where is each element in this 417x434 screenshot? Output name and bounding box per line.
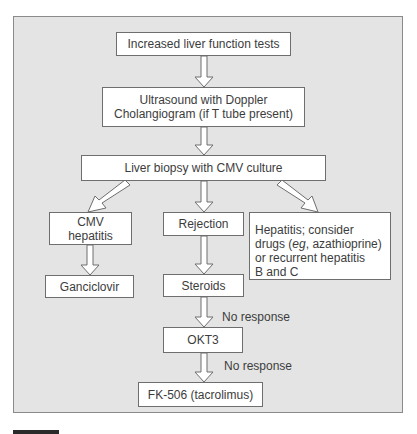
arrow-down-icon bbox=[195, 353, 213, 382]
node-liver-biopsy: Liver biopsy with CMV culture bbox=[81, 155, 326, 181]
arrow-down-icon bbox=[195, 181, 213, 212]
arrow-down-icon bbox=[195, 297, 213, 327]
hepatitis-text: Hepatitis; consider drugs (eg, azathiopr… bbox=[255, 223, 382, 279]
node-ganciclovir: Ganciclovir bbox=[45, 275, 134, 298]
arrow-diagonal-left-icon bbox=[88, 180, 130, 212]
edge-label-no-response-2: No response bbox=[224, 359, 292, 373]
node-cmv-hepatitis: CMV hepatitis bbox=[49, 212, 132, 245]
figure-label-bar bbox=[13, 430, 59, 434]
node-hepatitis-drugs: Hepatitis; consider drugs (eg, azathiopr… bbox=[249, 212, 391, 280]
node-ultrasound: Ultrasound with Doppler Cholangiogram (i… bbox=[102, 87, 305, 127]
node-increased-lft: Increased liver function tests bbox=[116, 32, 291, 56]
arrow-diagonal-right-icon bbox=[277, 180, 318, 212]
node-fk506: FK-506 (tacrolimus) bbox=[138, 382, 263, 407]
node-okt3: OKT3 bbox=[163, 327, 243, 353]
arrow-down-icon bbox=[195, 56, 213, 87]
node-steroids: Steroids bbox=[163, 274, 244, 297]
arrow-down-icon bbox=[195, 127, 213, 155]
arrow-down-icon bbox=[195, 236, 213, 274]
arrow-down-icon bbox=[81, 245, 99, 275]
node-rejection: Rejection bbox=[163, 212, 244, 236]
edge-label-no-response-1: No response bbox=[222, 310, 290, 324]
